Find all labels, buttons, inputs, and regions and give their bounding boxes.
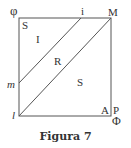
label-region-s: S — [77, 77, 83, 88]
label-region-i: I — [36, 34, 40, 45]
label-i-top: i — [81, 6, 84, 17]
figure-caption: Figura 7 — [0, 130, 131, 143]
diagonal-line — [19, 18, 111, 116]
label-region-r: R — [54, 56, 61, 67]
label-m-point: m — [7, 79, 15, 90]
label-a-corner: A — [101, 105, 109, 116]
label-phi-upper: Φ — [112, 116, 121, 127]
line-i-to-m — [19, 18, 81, 83]
label-m-corner: M — [108, 7, 118, 18]
label-l-corner: l — [12, 110, 15, 121]
label-s-corner: S — [22, 20, 28, 31]
label-phi-lower: φ — [10, 5, 18, 16]
